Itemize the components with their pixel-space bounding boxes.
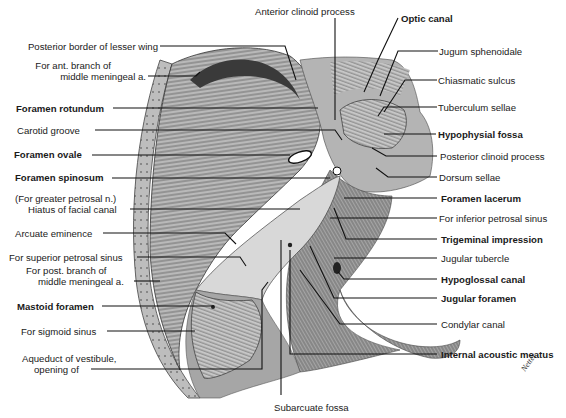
- label-internal-acoustic-meatus: Internal acoustic meatus: [441, 349, 554, 360]
- label-anterior-clinoid-process: Anterior clinoid process: [255, 6, 355, 17]
- label-hypophysial-fossa: Hypophysial fossa: [438, 129, 523, 140]
- label-ant-branch-mma-1: For ant. branch of: [0, 60, 111, 71]
- label-jugular-foramen: Jugular foramen: [441, 293, 516, 304]
- label-foramen-rotundum: Foramen rotundum: [16, 103, 104, 114]
- label-post-branch-mma-2: middle meningeal a.: [38, 276, 124, 287]
- label-posterior-clinoid-process: Posterior clinoid process: [440, 151, 545, 162]
- foramen-lacerum-shape: [333, 167, 341, 175]
- label-aqueduct-vestibule-1: Aqueduct of vestibule,: [22, 353, 116, 364]
- label-carotid-groove: Carotid groove: [17, 125, 80, 136]
- label-aqueduct-vestibule-2: opening of: [34, 364, 79, 375]
- label-jugular-tubercle: Jugular tubercle: [441, 253, 509, 264]
- label-jugum-sphenoidale: Jugum sphenoidale: [439, 46, 522, 57]
- label-hiatus-facial-canal-2: Hiatus of facial canal: [28, 204, 117, 215]
- label-sigmoid-sinus: For sigmoid sinus: [21, 326, 96, 337]
- label-hypoglossal-canal: Hypoglossal canal: [441, 274, 525, 285]
- label-tuberculum-sellae: Tuberculum sellae: [438, 102, 516, 113]
- label-post-branch-mma-1: For post. branch of: [26, 265, 107, 276]
- label-optic-canal: Optic canal: [401, 13, 453, 24]
- label-condylar-canal: Condylar canal: [441, 319, 505, 330]
- label-posterior-border-lesser-wing: Posterior border of lesser wing: [28, 41, 158, 52]
- label-chiasmatic-sulcus: Chiasmatic sulcus: [438, 75, 515, 86]
- label-dorsum-sellae: Dorsum sellae: [439, 172, 500, 183]
- label-foramen-lacerum: Foramen lacerum: [441, 193, 521, 204]
- label-hiatus-facial-canal-1: (For greater petrosal n.): [15, 193, 116, 204]
- label-foramen-spinosum: Foramen spinosum: [15, 172, 104, 183]
- label-ant-branch-mma-2: middle meningeal a.: [60, 71, 146, 82]
- label-subarcuate-fossa: Subarcuate fossa: [274, 402, 349, 413]
- anatomical-figure: Netter Anterior clinoid: [0, 0, 566, 418]
- label-superior-petrosal-sinus: For superior petrosal sinus: [9, 252, 123, 263]
- hypoglossal-canal-shape: [333, 262, 341, 274]
- internal-acoustic-meatus-shape: [288, 243, 292, 247]
- label-arcuate-eminence: Arcuate eminence: [15, 228, 92, 239]
- label-foramen-ovale: Foramen ovale: [14, 149, 82, 160]
- label-mastoid-foramen: Mastoid foramen: [17, 301, 94, 312]
- label-trigeminal-impression: Trigeminal impression: [441, 234, 543, 245]
- label-inferior-petrosal-sinus: For inferior petrosal sinus: [439, 213, 547, 224]
